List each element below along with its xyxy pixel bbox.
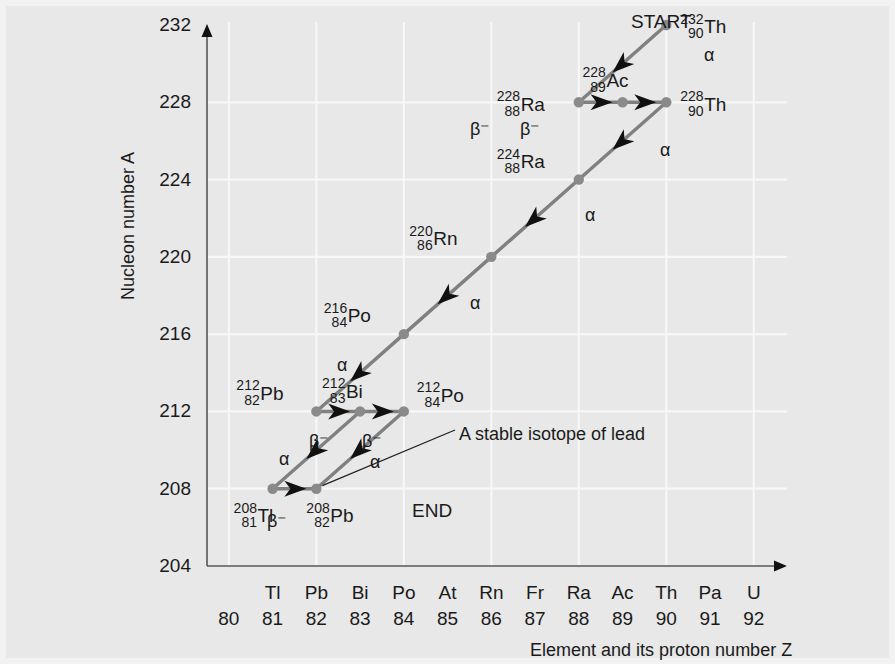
mass-number: 208	[234, 501, 257, 515]
atomic-number: 86	[409, 238, 432, 252]
atomic-number: 81	[234, 515, 257, 529]
nuclide-label-ac228: 22889Ac	[583, 66, 629, 95]
element-symbol: Ac	[606, 70, 628, 92]
mass-number: 228	[497, 89, 520, 103]
nuclide-label-bi212: 21283Bi	[322, 377, 363, 406]
end-annotation: END	[412, 500, 452, 522]
atomic-number: 83	[322, 391, 345, 405]
nuclide-label-pb212: 21282Pb	[236, 379, 283, 408]
nuclide-label-po216: 21684Po	[324, 302, 371, 331]
element-symbol: Rn	[433, 228, 457, 250]
mass-number: 212	[322, 376, 345, 390]
nuclide-label-ra228: 22888Ra	[497, 90, 545, 119]
callout-leader-line	[322, 430, 455, 486]
y-tick-label: 220	[131, 247, 191, 266]
nuclide-label-rn220: 22086Rn	[409, 225, 457, 254]
x-tick-proton-number: 92	[724, 609, 784, 628]
decay-mode-label-beta-: β⁻	[309, 430, 329, 452]
element-symbol: Th	[704, 94, 726, 116]
decay-mode-label-alpha: α	[660, 140, 670, 161]
element-symbol: Pb	[330, 505, 353, 527]
nuclide-node-rn220	[486, 252, 496, 262]
element-symbol: Pb	[260, 383, 283, 405]
mass-number: 216	[324, 301, 347, 315]
decay-mode-label-alpha: α	[337, 355, 347, 376]
decay-mode-label-alpha: α	[585, 205, 595, 226]
mass-number: 208	[306, 501, 329, 515]
mass-number: 220	[409, 224, 432, 238]
element-symbol: Ra	[521, 94, 545, 116]
atomic-number: 88	[497, 104, 520, 118]
nuclide-label-po212: 21284Po	[417, 381, 464, 410]
x-axis-title: Element and its proton number Z	[530, 640, 792, 661]
y-tick-label: 216	[131, 324, 191, 343]
nuclide-node-ra224	[574, 174, 584, 184]
nuclide-label-ra224: 22488Ra	[497, 148, 545, 177]
nuclide-node-pb208	[311, 484, 321, 494]
mass-number: 212	[236, 378, 259, 392]
mass-number: 212	[417, 380, 440, 394]
atomic-number: 90	[680, 104, 703, 118]
atomic-number: 88	[497, 161, 520, 175]
mass-number: 224	[497, 147, 520, 161]
nuclide-node-ra228	[574, 97, 584, 107]
atomic-number: 82	[306, 515, 329, 529]
atomic-number: 84	[324, 315, 347, 329]
decay-mode-label-alpha: α	[470, 293, 480, 314]
nuclide-label-th228: 22890Th	[680, 90, 726, 119]
mass-number: 228	[680, 89, 703, 103]
decay-series-figure: Nucleon number A Element and its proton …	[0, 0, 895, 664]
y-tick-label: 232	[131, 15, 191, 34]
x-tick-element-symbol: U	[724, 583, 784, 602]
y-tick-label: 228	[131, 92, 191, 111]
atomic-number: 82	[236, 393, 259, 407]
decay-mode-label-beta-: β⁻	[470, 118, 490, 140]
nuclide-node-po216	[399, 329, 409, 339]
element-symbol: Po	[441, 385, 464, 407]
y-tick-label: 208	[131, 479, 191, 498]
y-tick-label: 224	[131, 170, 191, 189]
y-tick-label: 212	[131, 401, 191, 420]
decay-mode-label-alpha: α	[279, 449, 289, 470]
nuclide-node-pb212	[311, 406, 321, 416]
callout-leader	[322, 430, 455, 486]
nuclide-node-po212	[399, 406, 409, 416]
element-symbol: Th	[704, 16, 726, 38]
mass-number: 228	[583, 65, 606, 79]
atomic-number: 89	[583, 80, 606, 94]
decay-mode-label-beta-: β⁻	[267, 510, 287, 532]
start-annotation: START	[631, 11, 692, 33]
stable-isotope-callout: A stable isotope of lead	[459, 424, 645, 445]
element-symbol: Po	[348, 305, 371, 327]
decay-mode-label-alpha: α	[370, 452, 380, 473]
y-tick-label: 204	[131, 556, 191, 575]
atomic-number: 84	[417, 395, 440, 409]
nuclide-node-ac228	[617, 97, 627, 107]
decay-mode-label-beta-: β⁻	[362, 430, 382, 452]
decay-mode-label-alpha: α	[704, 45, 714, 66]
nuclide-node-bi212	[355, 406, 365, 416]
nuclide-node-tl208	[267, 484, 277, 494]
nuclide-node-th228	[661, 97, 671, 107]
nuclide-label-pb208: 20882Pb	[306, 502, 353, 531]
element-symbol: Bi	[346, 381, 363, 403]
element-symbol: Ra	[521, 151, 545, 173]
decay-mode-label-beta-: β⁻	[520, 118, 540, 140]
